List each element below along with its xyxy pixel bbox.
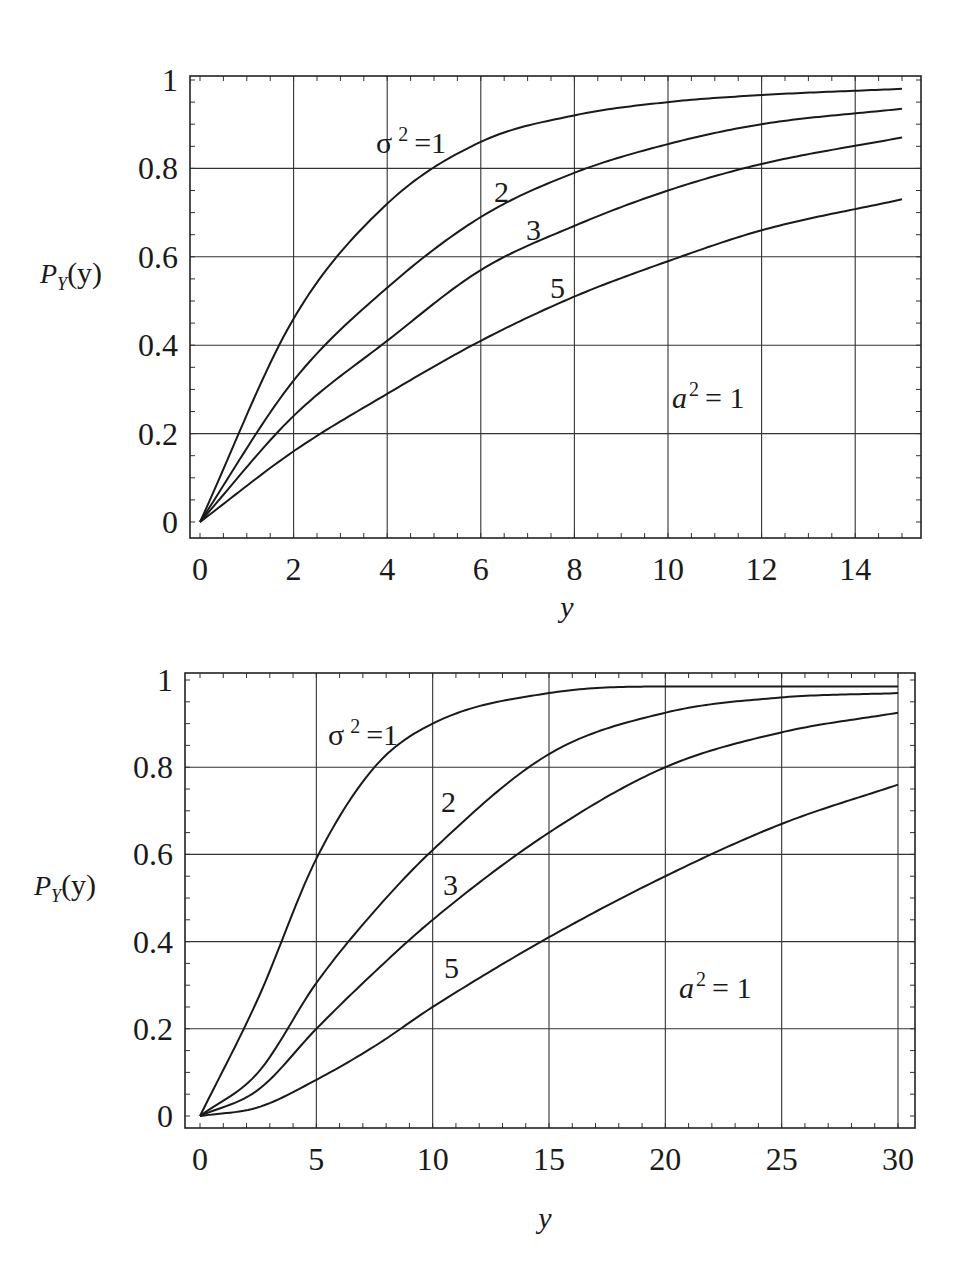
x-tick-label: 0	[192, 551, 208, 587]
y-tick-labels: 00.20.40.60.81	[133, 662, 173, 1134]
curves	[200, 89, 902, 522]
x-tick-label: 10	[417, 1141, 449, 1177]
x-tick-label: 20	[649, 1141, 681, 1177]
y-tick-label: 0	[162, 504, 178, 540]
y-tick-label: 1	[162, 62, 178, 98]
top-chart: 02468101214 00.20.40.60.81 PY(y) y σ2=1 …	[0, 0, 968, 640]
curve-label-2: 2	[494, 175, 509, 208]
curve-label-sigma1: σ2=1	[376, 123, 446, 159]
x-tick-labels: 02468101214	[192, 551, 871, 587]
y-tick-label: 0.8	[138, 150, 178, 186]
x-tick-label: 8	[566, 551, 582, 587]
x-tick-label: 25	[766, 1141, 798, 1177]
x-tick-label: 12	[746, 551, 778, 587]
y-tick-label: 0.2	[138, 416, 178, 452]
curve-1	[200, 89, 902, 522]
curve-label-sigma1: σ2=1	[328, 715, 398, 751]
curve-label-5: 5	[550, 271, 565, 304]
curve-3	[200, 137, 902, 522]
grid	[185, 673, 915, 1128]
x-tick-labels: 051015202530	[192, 1141, 914, 1177]
curve-2	[200, 109, 902, 522]
y-tick-label: 0.4	[133, 924, 173, 960]
y-tick-label: 0.8	[133, 749, 173, 785]
x-tick-label: 30	[882, 1141, 914, 1177]
x-tick-label: 14	[839, 551, 871, 587]
y-axis-label: PY(y)	[39, 256, 102, 294]
x-tick-label: 0	[192, 1141, 208, 1177]
curve-label-3: 3	[443, 868, 458, 901]
curve-label-3: 3	[526, 213, 541, 246]
y-tick-label: 0	[157, 1098, 173, 1134]
curve-label-2: 2	[441, 785, 456, 818]
y-tick-label: 0.4	[138, 327, 178, 363]
x-tick-label: 15	[533, 1141, 565, 1177]
y-tick-label: 1	[157, 662, 173, 698]
parameter-label-a: a2= 1	[679, 968, 751, 1004]
bottom-chart: 051015202530 00.20.40.60.81 PY(y) y σ2=1…	[0, 640, 968, 1273]
bottom-chart-plot: 051015202530 00.20.40.60.81 PY(y) y σ2=1…	[0, 640, 968, 1273]
curve-5	[200, 199, 902, 522]
curve-label-5: 5	[444, 951, 459, 984]
x-axis-label: y	[535, 1201, 552, 1234]
y-tick-label: 0.6	[138, 239, 178, 275]
x-tick-label: 2	[286, 551, 302, 587]
x-tick-label: 5	[308, 1141, 324, 1177]
y-tick-labels: 00.20.40.60.81	[138, 62, 178, 540]
x-tick-label: 10	[652, 551, 684, 587]
x-axis-label: y	[557, 590, 574, 623]
y-axis-label: PY(y)	[33, 868, 96, 906]
top-chart-plot: 02468101214 00.20.40.60.81 PY(y) y σ2=1 …	[0, 0, 968, 640]
plot-frame	[185, 673, 915, 1128]
x-tick-label: 6	[473, 551, 489, 587]
y-tick-label: 0.2	[133, 1011, 173, 1047]
minor-ticks	[185, 673, 915, 1128]
parameter-label-a: a2= 1	[672, 378, 744, 414]
x-tick-label: 4	[379, 551, 395, 587]
y-tick-label: 0.6	[133, 836, 173, 872]
